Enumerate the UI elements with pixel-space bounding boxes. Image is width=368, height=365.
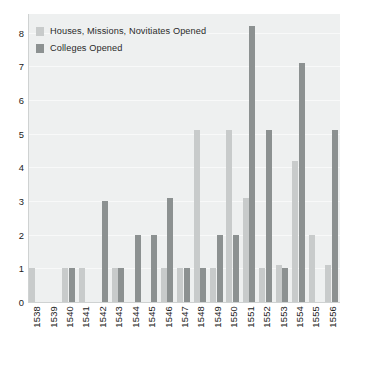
x-tick-label: 1548: [195, 306, 206, 328]
bar: [282, 268, 288, 302]
bar: [276, 265, 282, 302]
bar: [151, 235, 157, 302]
x-axis-tick-labels: 1538153915401541154215431544154515461547…: [28, 302, 340, 364]
y-tick-label: 8: [2, 27, 24, 38]
bar: [243, 198, 249, 302]
bar: [200, 268, 206, 302]
legend-item-colleges: Colleges Opened: [36, 41, 206, 55]
bar: [177, 268, 183, 302]
x-tick-label: 1555: [310, 306, 321, 328]
x-tick-label: 1556: [327, 306, 338, 328]
bar: [69, 268, 75, 302]
x-tick-label: 1553: [278, 306, 289, 328]
bar: [161, 268, 167, 302]
legend-label-houses: Houses, Missions, Novitiates Opened: [50, 26, 206, 36]
y-tick-label: 1: [2, 263, 24, 274]
y-tick-label: 2: [2, 229, 24, 240]
bar: [332, 130, 338, 302]
y-tick-label: 0: [2, 297, 24, 308]
y-axis-tick-labels: 012345678: [0, 0, 24, 365]
x-tick-label: 1540: [64, 306, 75, 328]
bar: [62, 268, 68, 302]
x-tick-label: 1550: [228, 306, 239, 328]
bar: [266, 130, 272, 302]
bar: [210, 268, 216, 302]
x-tick-label: 1551: [245, 306, 256, 328]
y-tick-label: 4: [2, 162, 24, 173]
bar: [118, 268, 124, 302]
bar: [233, 235, 239, 302]
bar: [79, 268, 85, 302]
x-tick-label: 1541: [80, 306, 91, 328]
x-tick-label: 1549: [212, 306, 223, 328]
legend-item-houses: Houses, Missions, Novitiates Opened: [36, 24, 206, 38]
x-tick-label: 1542: [97, 306, 108, 328]
legend-swatch-colleges-icon: [36, 44, 44, 53]
bar: [29, 268, 35, 302]
bar: [226, 130, 232, 302]
x-tick-label: 1552: [261, 306, 272, 328]
bar: [184, 268, 190, 302]
chart-legend: Houses, Missions, Novitiates Opened Coll…: [36, 24, 206, 58]
x-tick-label: 1546: [163, 306, 174, 328]
y-tick-label: 6: [2, 94, 24, 105]
x-tick-label: 1543: [113, 306, 124, 328]
bar: [309, 235, 315, 302]
bar: [249, 26, 255, 302]
bar: [325, 265, 331, 302]
bar: [167, 198, 173, 302]
legend-label-colleges: Colleges Opened: [50, 43, 123, 53]
y-tick-label: 3: [2, 195, 24, 206]
bar: [292, 161, 298, 302]
bar-chart: 012345678 153815391540154115421543154415…: [0, 0, 368, 365]
bar: [112, 268, 118, 302]
bar: [217, 235, 223, 302]
x-tick-label: 1545: [146, 306, 157, 328]
y-tick-label: 5: [2, 128, 24, 139]
legend-swatch-houses-icon: [36, 27, 44, 36]
bar: [135, 235, 141, 302]
bar: [194, 130, 200, 302]
x-tick-label: 1539: [48, 306, 59, 328]
x-tick-label: 1538: [31, 306, 42, 328]
bar: [259, 268, 265, 302]
x-tick-label: 1547: [179, 306, 190, 328]
x-tick-label: 1544: [130, 306, 141, 328]
y-tick-label: 7: [2, 61, 24, 72]
bar: [299, 63, 305, 302]
x-tick-label: 1554: [294, 306, 305, 328]
bar: [102, 201, 108, 302]
